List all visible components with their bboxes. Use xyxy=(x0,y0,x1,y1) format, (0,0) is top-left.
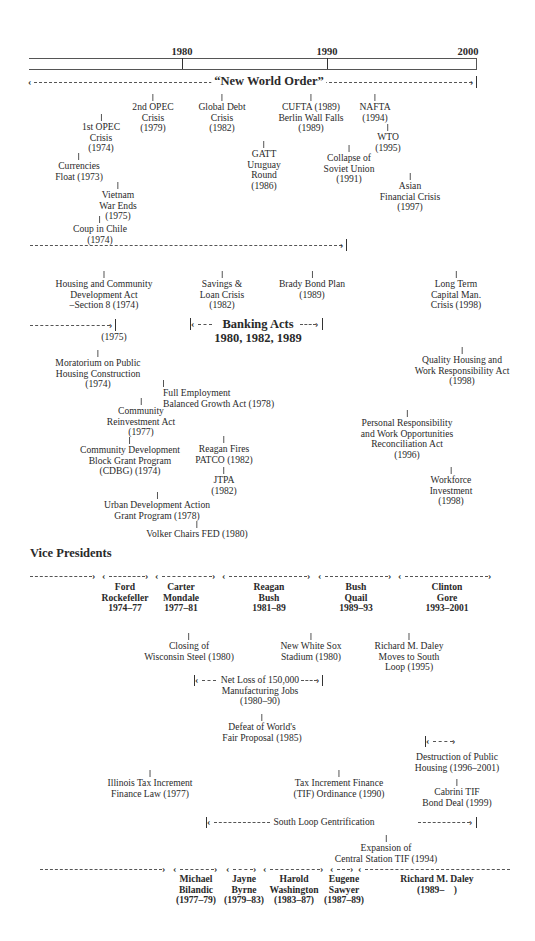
event-tick-mark xyxy=(78,153,79,160)
event-tick-mark xyxy=(375,94,376,101)
event-tick-mark xyxy=(387,124,388,131)
term-dashed-line xyxy=(229,576,307,577)
axis-year-2000: 2000 xyxy=(458,46,479,57)
arrow-right-icon: › xyxy=(452,736,455,746)
event-tick-mark xyxy=(457,779,458,786)
term-dashed-line xyxy=(233,869,253,870)
timeline-event: WTO (1995) xyxy=(375,124,401,153)
timeline-event: Defeat of World's Fair Proposal (1985) xyxy=(222,714,301,743)
event-tick-mark xyxy=(117,182,118,189)
timeline-event: Expansion of Central Station TIF (1994) xyxy=(335,835,437,864)
event-label: Richard M. Daley Moves to South Loop (19… xyxy=(374,640,443,672)
event-tick-mark xyxy=(223,467,224,474)
timeline-event: Global Debt Crisis (1982) xyxy=(198,94,245,134)
arrow-right-icon: › xyxy=(212,571,215,581)
term-dashed-line xyxy=(109,576,145,577)
term-label: Harold Washington (1983–87) xyxy=(269,874,318,906)
section8-end-bar xyxy=(115,319,116,331)
event-label: WTO (1995) xyxy=(375,131,401,153)
arrow-right-icon: › xyxy=(145,571,148,581)
event-tick-mark xyxy=(156,492,157,499)
banking-dashed-right xyxy=(300,324,316,325)
arrow-left-icon: ‹ xyxy=(398,571,401,581)
axis-year-1990: 1990 xyxy=(317,46,338,57)
event-tick-mark xyxy=(189,633,190,640)
event-tick-mark xyxy=(262,714,263,721)
timeline-event: Richard M. Daley Moves to South Loop (19… xyxy=(374,633,443,673)
global-era-end-bar xyxy=(346,239,347,251)
event-tick-mark xyxy=(196,521,197,528)
event-tick-mark xyxy=(153,94,154,101)
event-tick-mark xyxy=(338,770,339,777)
timeline-event: Closing of Wisconsin Steel (1980) xyxy=(144,633,234,662)
banking-acts-label: Banking Acts 1980, 1982, 1989 xyxy=(214,317,302,345)
timeline-event: Volker Chairs FED (1980) xyxy=(146,521,247,540)
netloss-dashed-left xyxy=(202,680,216,681)
event-tick-mark xyxy=(407,410,408,417)
event-tick-mark xyxy=(408,633,409,640)
term-dashed-line xyxy=(40,869,162,870)
timeline-event: Moratorium on Public Housing Constructio… xyxy=(55,350,140,390)
timeline-event: Urban Development Action Grant Program (… xyxy=(104,492,210,521)
event-label: Community Reinvestment Act (1977) xyxy=(107,405,175,437)
timeline-event: 2nd OPEC Crisis (1979) xyxy=(132,94,173,134)
timeline-event: Tax Increment Finance (TIF) Ordinance (1… xyxy=(293,770,384,799)
event-label: Urban Development Action Grant Program (… xyxy=(104,499,210,521)
timeline-event: Illinois Tax Increment Finance Law (1977… xyxy=(108,770,193,799)
event-tick-mark xyxy=(310,94,311,101)
timeline-event: Coup in Chile (1974) xyxy=(73,216,127,245)
section8-dashed-line xyxy=(30,325,110,326)
axis-year-1980: 1980 xyxy=(172,46,193,57)
axis-tick-1990 xyxy=(327,58,328,69)
event-tick-mark xyxy=(461,347,462,354)
term-label: Richard M. Daley (1989– ) xyxy=(400,874,473,895)
arrow-right-icon: › xyxy=(315,319,318,329)
event-tick-mark xyxy=(349,145,350,152)
event-label: Global Debt Crisis (1982) xyxy=(198,101,245,133)
new-world-order-banner: “New World Order” xyxy=(211,74,326,89)
timeline-event: Housing and Community Development Act –S… xyxy=(55,271,152,311)
axis-bar xyxy=(29,58,477,70)
arrow-right-icon: › xyxy=(109,320,112,330)
event-label: Long Term Capital Man. Crisis (1998) xyxy=(431,278,481,310)
timeline-event: Brady Bond Plan (1989) xyxy=(279,271,345,300)
event-label: Collapse of Soviet Union (1991) xyxy=(324,152,375,184)
timeline-event: Full Employment Balanced Growth Act (197… xyxy=(163,380,274,409)
term-dashed-line xyxy=(365,869,510,870)
timeline-event: Asian Financial Crisis (1997) xyxy=(380,173,441,213)
event-label: CUFTA (1989) Berlin Wall Falls (1989) xyxy=(278,101,343,133)
arrow-right-icon: › xyxy=(316,675,319,685)
event-label: Full Employment Balanced Growth Act (197… xyxy=(163,387,274,409)
event-label: Volker Chairs FED (1980) xyxy=(146,528,247,539)
timeline-event: CUFTA (1989) Berlin Wall Falls (1989) xyxy=(278,94,343,134)
event-label: Brady Bond Plan (1989) xyxy=(279,278,345,300)
event-tick-mark xyxy=(130,437,131,444)
event-label: Coup in Chile (1974) xyxy=(73,223,127,245)
arrow-left-icon: ‹ xyxy=(426,736,429,746)
timeline-event: Personal Responsibility and Work Opportu… xyxy=(361,410,453,460)
event-tick-mark xyxy=(140,398,141,405)
timeline-event: Community Reinvestment Act (1977) xyxy=(107,398,175,438)
event-tick-mark xyxy=(223,436,224,443)
event-tick-mark xyxy=(410,173,411,180)
arrow-right-icon: › xyxy=(340,240,343,250)
timeline-event: Currencies Float (1973) xyxy=(55,153,103,182)
term-label: Bush Quail 1989–93 xyxy=(339,582,373,614)
event-label: Housing and Community Development Act –S… xyxy=(55,278,152,310)
arrow-right-icon: › xyxy=(307,571,310,581)
term-label: Carter Mondale 1977–81 xyxy=(163,582,199,614)
term-label: Ford Rockefeller 1974–77 xyxy=(102,582,149,614)
arrow-left-icon: ‹ xyxy=(195,675,198,685)
event-label: Moratorium on Public Housing Constructio… xyxy=(55,357,140,389)
arrow-right-icon: › xyxy=(388,571,391,581)
timeline-event: Collapse of Soviet Union (1991) xyxy=(324,145,375,185)
event-tick-mark xyxy=(221,271,222,278)
timeline-event: Workforce Investment (1998) xyxy=(430,467,473,507)
arrow-left-icon: ‹ xyxy=(155,571,158,581)
event-label: Destruction of Public Housing (1996–2001… xyxy=(415,751,499,773)
arrow-left-icon: ‹ xyxy=(28,77,31,87)
netloss-end-bar xyxy=(322,675,323,686)
event-label: Expansion of Central Station TIF (1994) xyxy=(335,842,437,864)
term-dashed-line xyxy=(337,869,350,870)
term-dashed-line xyxy=(180,869,214,870)
